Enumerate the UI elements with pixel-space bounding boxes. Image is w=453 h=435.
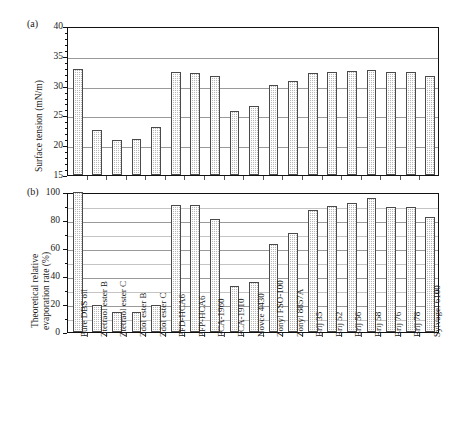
x-axis-label: FCA-1910 xyxy=(237,298,246,337)
x-axis-label: Zdol ester B xyxy=(139,293,148,338)
x-axis-label: Zonyl FSO-100 xyxy=(276,280,285,337)
x-axis-label: Brij 35 xyxy=(315,312,324,337)
x-axis-label: Zonyl 8857A xyxy=(296,289,305,337)
x-axis-label: Sylvagel 6100 xyxy=(433,285,442,337)
x-axis-label: Brij 56 xyxy=(354,312,363,337)
x-axis-label: PFD-HCA6 xyxy=(178,294,187,337)
x-axis-label: Pure DBS oil xyxy=(80,289,89,337)
x-axis-label: Brij 76 xyxy=(394,312,403,337)
x-axis-label: Brij 58 xyxy=(374,312,383,337)
figure-container: (a) (b) Surface tension (mN/m) Theoretic… xyxy=(0,0,453,435)
x-axis-label: Novce 4430 xyxy=(257,293,266,337)
x-axis-label: Brij 78 xyxy=(413,312,422,337)
x-axis-label: Ztetraol ester B xyxy=(100,281,109,337)
x-axis-label: PFP-HCA6 xyxy=(198,295,207,337)
x-axis-label: Zdol ester C xyxy=(159,293,168,338)
x-axis-label: Brij 52 xyxy=(335,312,344,337)
x-axis-label: FCA-1960 xyxy=(217,298,226,337)
x-axis-category-labels: Pure DBS oilZtetraol ester BZtetraol est… xyxy=(0,0,453,435)
x-axis-label: Ztetraol ester C xyxy=(119,281,128,337)
